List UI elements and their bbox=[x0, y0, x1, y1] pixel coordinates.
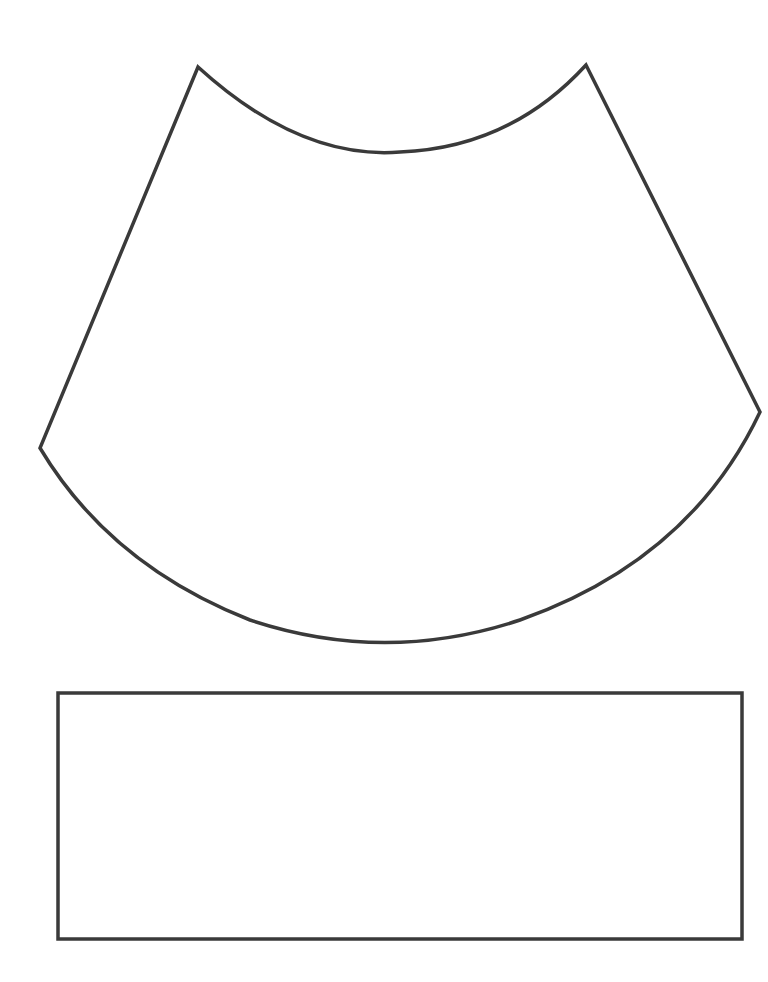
rectangle-strip-shape bbox=[58, 693, 742, 939]
cone-sector-shape bbox=[40, 65, 760, 643]
template-canvas bbox=[0, 0, 768, 982]
